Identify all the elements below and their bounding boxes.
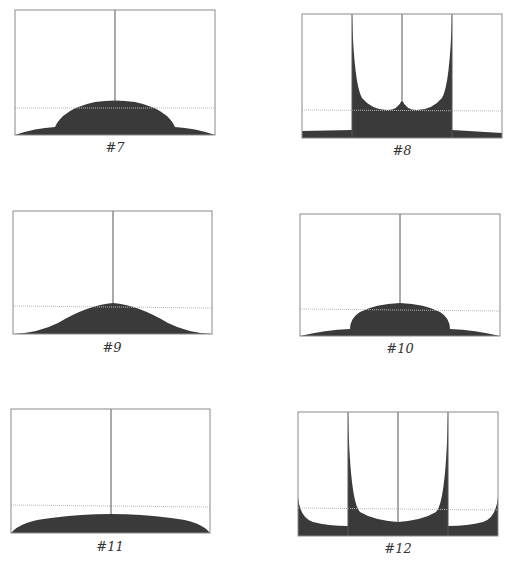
density-fill	[300, 303, 500, 336]
density-fill-right	[448, 497, 498, 536]
density-fill	[11, 514, 210, 533]
plot-panel-10	[300, 214, 500, 336]
panel-label-10: #10	[378, 341, 422, 356]
density-plot-12	[298, 412, 498, 536]
plot-panel-9	[13, 211, 212, 334]
density-plot-7	[15, 10, 215, 135]
density-plot-9	[13, 211, 212, 334]
density-plot-10	[300, 214, 500, 336]
density-plot-8	[302, 14, 502, 138]
panel-label-8: #8	[382, 143, 422, 158]
panel-label-9: #9	[92, 340, 132, 355]
density-fill-left	[298, 497, 348, 536]
density-fill	[13, 303, 212, 334]
density-plot-11	[11, 409, 210, 533]
density-fill	[15, 101, 215, 136]
plot-panel-12	[298, 412, 498, 536]
plot-panel-8	[302, 14, 502, 138]
panel-label-12: #12	[376, 541, 420, 556]
plot-panel-7	[15, 10, 215, 135]
panel-label-7: #7	[95, 140, 135, 155]
panel-label-11: #11	[88, 539, 132, 554]
plot-panel-11	[11, 409, 210, 533]
